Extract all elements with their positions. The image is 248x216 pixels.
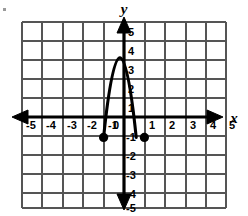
point-neg1-neg1 [99,133,108,142]
y-tick-label: -3 [126,169,136,181]
x-tick-labels: -5 -4 -3 -2 -1 1 2 3 4 5 [26,119,235,131]
y-tick-label: 4 [128,45,135,57]
x-tick-label: -3 [67,119,77,131]
coordinate-graph: y x -5 -4 -3 -2 -1 1 2 3 4 5 5 4 3 2 1 -… [0,0,248,216]
origin-label: 0 [113,119,119,131]
x-tick-label: 4 [210,119,217,131]
axis-lines [12,17,223,210]
y-tick-label: -2 [126,150,136,162]
y-tick-label: -4 [126,188,137,200]
x-tick-label: 2 [169,119,175,131]
y-tick-label: 3 [128,64,134,76]
x-tick-label: -4 [46,119,57,131]
y-tick-label: 1 [128,102,134,114]
y-axis-label: y [119,1,128,17]
x-tick-label: -2 [87,119,97,131]
x-tick-label: -5 [26,119,36,131]
y-tick-label: -1 [126,131,136,143]
point-1-neg1 [140,133,149,142]
x-tick-label: 1 [149,119,155,131]
graph-canvas: y x -5 -4 -3 -2 -1 1 2 3 4 5 5 4 3 2 1 -… [0,0,248,216]
y-tick-label: 2 [128,83,134,95]
y-tick-label: -5 [126,202,136,214]
y-tick-label: 5 [128,26,134,38]
x-tick-label: 3 [190,119,196,131]
x-tick-label: 5 [229,119,235,131]
